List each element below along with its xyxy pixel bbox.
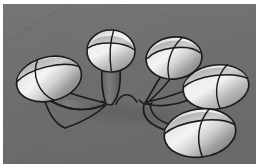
balloon-top-center[interactable] — [86, 29, 135, 73]
render-viewport[interactable] — [3, 4, 256, 164]
scene-canvas — [3, 4, 256, 164]
